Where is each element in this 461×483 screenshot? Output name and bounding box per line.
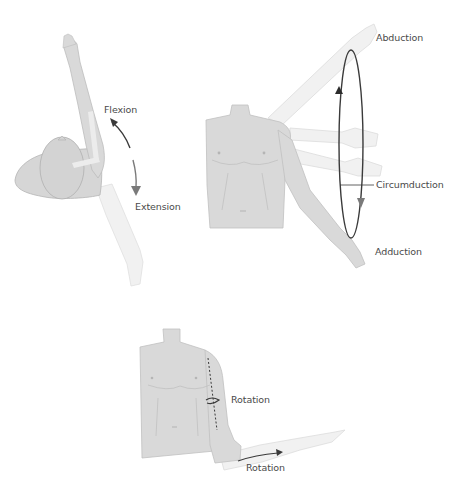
shoulder-movements-diagram	[0, 0, 461, 483]
abducted-arm-faded	[268, 24, 377, 125]
rotation-nipple-left	[151, 377, 154, 380]
torso-front	[206, 105, 291, 228]
extension-arrowhead-icon	[131, 186, 141, 196]
label-flexion: Flexion	[104, 104, 137, 115]
extended-arm-faded	[96, 184, 143, 286]
label-rotation-arm: Rotation	[231, 394, 270, 405]
rotation-arm	[205, 350, 241, 463]
adduction-arrowhead-icon	[357, 198, 365, 208]
label-extension: Extension	[135, 201, 181, 212]
label-rotation-forearm: Rotation	[246, 462, 285, 473]
label-abduction: Abduction	[376, 32, 423, 43]
nipple-right	[263, 152, 266, 155]
adducted-arm	[278, 130, 365, 268]
flexion-arrow	[112, 122, 130, 148]
flexion-extension-panel	[15, 34, 143, 286]
horizontal-arm-faded	[290, 128, 378, 148]
nipple-left	[218, 152, 221, 155]
rotation-nipple-right	[195, 377, 198, 380]
abduction-panel	[206, 24, 382, 268]
label-circumduction: Circumduction	[376, 179, 444, 190]
extension-arrow	[133, 160, 136, 188]
head-top-view	[40, 137, 84, 199]
label-adduction: Adduction	[375, 246, 422, 257]
